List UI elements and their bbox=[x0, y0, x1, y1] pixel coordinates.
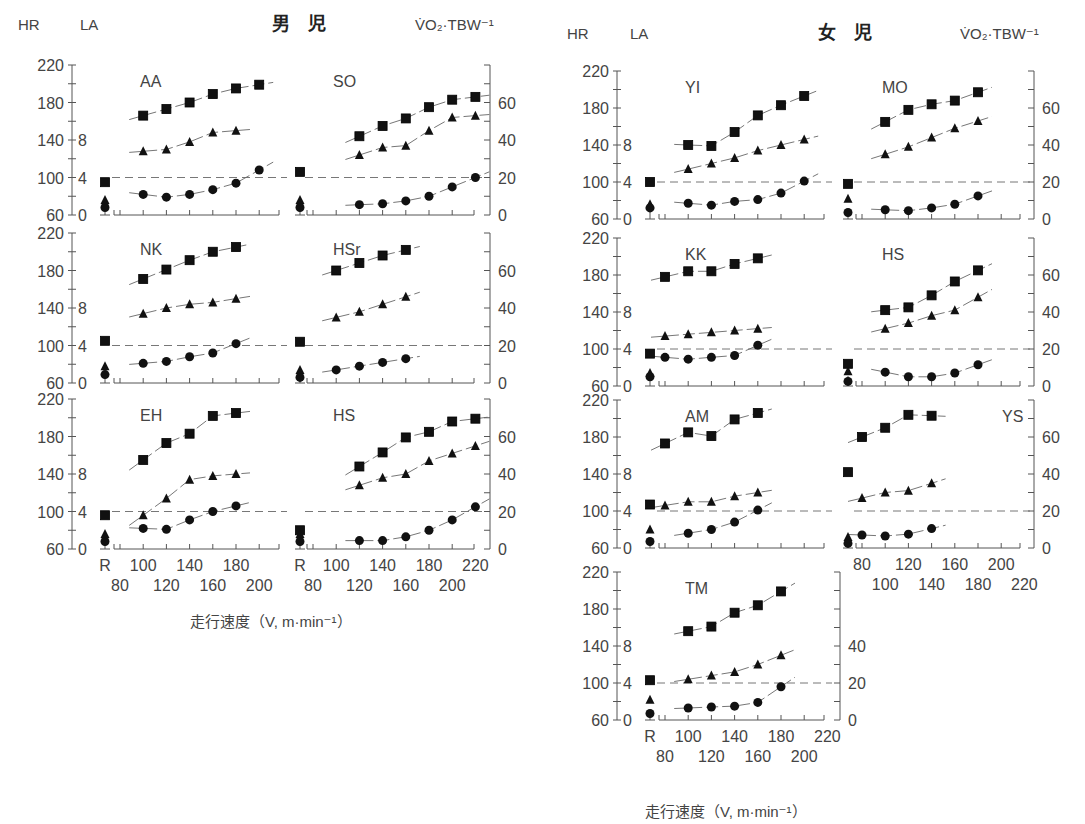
panel-male-eh: 60100140180220048EHR10014018080120160200 bbox=[37, 391, 287, 594]
hr-square-marker bbox=[800, 91, 809, 100]
tm-vo2-axis: 02040 bbox=[834, 572, 866, 729]
la-tick-label: 8 bbox=[78, 466, 87, 483]
vo2-tick-label: 20 bbox=[498, 504, 516, 521]
hr-square-marker bbox=[378, 251, 387, 260]
x-tick-label: 160 bbox=[744, 748, 771, 765]
x-tick-label: 80 bbox=[656, 748, 674, 765]
female-header: HR LA 女 児 V̇O₂·TBW⁻¹ bbox=[567, 22, 1039, 43]
la-circle-marker bbox=[707, 703, 716, 712]
la-circle-marker bbox=[355, 200, 364, 209]
hr-square-marker bbox=[904, 105, 913, 114]
vo2-tick-label: 60 bbox=[1042, 267, 1060, 284]
x-tick-label-rest: R bbox=[294, 557, 306, 574]
vo2-tick-label: 40 bbox=[1042, 137, 1060, 154]
hr-square-marker bbox=[448, 417, 457, 426]
hr-tick-label: 180 bbox=[582, 429, 609, 446]
hr-tick-label: 100 bbox=[582, 341, 609, 358]
hr-square-marker bbox=[684, 627, 693, 636]
la-tick-label: 4 bbox=[78, 338, 87, 355]
female-hr-label: HR bbox=[567, 25, 589, 42]
hr-square-marker bbox=[139, 455, 148, 464]
la-circle-marker bbox=[448, 182, 457, 191]
hr-tick-label: 220 bbox=[37, 391, 64, 408]
vo2-triangle-marker bbox=[927, 133, 936, 142]
hr-rest-square-marker bbox=[844, 468, 853, 477]
la-circle-marker bbox=[232, 339, 241, 348]
la-circle-marker bbox=[208, 507, 217, 516]
la-circle-marker bbox=[401, 354, 410, 363]
hr-square-marker bbox=[401, 245, 410, 254]
la-circle-marker bbox=[904, 206, 913, 215]
x-tick-label: 160 bbox=[941, 556, 968, 573]
hr-square-marker bbox=[753, 254, 762, 263]
hr-square-marker bbox=[707, 141, 716, 150]
la-circle-marker bbox=[730, 518, 739, 527]
la-circle-marker bbox=[401, 532, 410, 541]
la-circle-marker bbox=[208, 349, 217, 358]
hr-tick-label: 100 bbox=[582, 503, 609, 520]
la-trend-line bbox=[345, 499, 489, 541]
la-tick-label: 8 bbox=[623, 137, 632, 154]
vo2-triangle-marker bbox=[950, 305, 959, 314]
vo2-triangle-marker bbox=[904, 142, 913, 151]
vo2-tick-label: 20 bbox=[498, 170, 516, 187]
hr-square-marker bbox=[904, 303, 913, 312]
vo2-triangle-marker bbox=[401, 292, 410, 301]
la-circle-marker bbox=[684, 703, 693, 712]
hr-tick-label: 180 bbox=[582, 100, 609, 117]
la-circle-marker bbox=[904, 530, 913, 539]
la-circle-marker bbox=[881, 368, 890, 377]
la-circle-marker bbox=[378, 199, 387, 208]
la-trend-line bbox=[674, 174, 818, 205]
vo2-tick-label: 0 bbox=[848, 712, 857, 729]
la-rest-circle-marker bbox=[646, 372, 655, 381]
x-tick-label-rest: R bbox=[99, 557, 111, 574]
la-tick-label: 8 bbox=[623, 466, 632, 483]
la-circle-marker bbox=[208, 185, 217, 194]
la-circle-marker bbox=[974, 360, 983, 369]
vo2-tick-label: 40 bbox=[498, 466, 516, 483]
la-rest-circle-marker bbox=[646, 537, 655, 546]
vo2-rest-triangle-marker bbox=[646, 525, 655, 534]
vo2-triangle-marker bbox=[232, 294, 241, 303]
male-vo2-label: V̇O₂·TBW⁻¹ bbox=[415, 16, 494, 33]
la-circle-marker bbox=[730, 702, 739, 711]
hr-tick-label: 180 bbox=[37, 95, 64, 112]
x-tick-label: 80 bbox=[111, 577, 129, 594]
panel-label: YS bbox=[1002, 408, 1023, 425]
la-circle-marker bbox=[332, 365, 341, 374]
la-tick-label: 0 bbox=[78, 541, 87, 558]
hr-square-marker bbox=[355, 132, 364, 141]
x-tick-label: 140 bbox=[721, 728, 748, 745]
hr-square-marker bbox=[661, 439, 670, 448]
hr-tick-label: 100 bbox=[37, 338, 64, 355]
panel-female-ys: 0204060YS10014018022080120160200 bbox=[843, 400, 1060, 593]
hr-trend-line bbox=[345, 417, 489, 475]
la-tick-label: 0 bbox=[623, 712, 632, 729]
panel-label: NK bbox=[140, 241, 163, 258]
hr-tick-label: 180 bbox=[582, 267, 609, 284]
x-tick-label: 200 bbox=[988, 556, 1015, 573]
la-trend-line bbox=[129, 162, 273, 197]
la-circle-marker bbox=[881, 531, 890, 540]
la-circle-marker bbox=[858, 531, 867, 540]
vo2-triangle-marker bbox=[753, 488, 762, 497]
vo2-triangle-marker bbox=[471, 111, 480, 120]
vo2-triangle-marker bbox=[355, 150, 364, 159]
vo2-tick-label: 60 bbox=[1042, 429, 1060, 446]
panel-label: AM bbox=[685, 408, 709, 425]
vo2-triangle-marker bbox=[684, 497, 693, 506]
la-rest-circle-marker bbox=[101, 370, 110, 379]
hr-square-marker bbox=[950, 277, 959, 286]
hr-tick-label: 220 bbox=[582, 63, 609, 80]
la-circle-marker bbox=[684, 355, 693, 364]
x-tick-label: 220 bbox=[814, 728, 841, 745]
la-circle-marker bbox=[162, 357, 171, 366]
la-circle-marker bbox=[881, 205, 890, 214]
vo2-rest-triangle-marker bbox=[101, 529, 110, 538]
hr-square-marker bbox=[185, 429, 194, 438]
hr-rest-square-marker bbox=[844, 179, 853, 188]
vo2-triangle-marker bbox=[232, 469, 241, 478]
hr-square-marker bbox=[881, 423, 890, 432]
male-header: HR LA 男 児 V̇O₂·TBW⁻¹ bbox=[18, 13, 494, 34]
